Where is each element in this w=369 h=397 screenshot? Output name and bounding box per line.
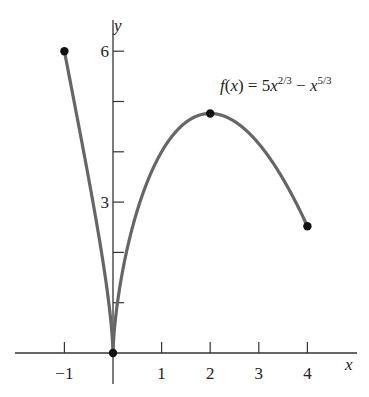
axes — [15, 20, 357, 384]
marked-point — [303, 222, 311, 230]
x-ticks: −11234 — [55, 342, 312, 383]
marked-point — [60, 47, 68, 55]
function-plot: −11234 36 y x f(x) = 5x2/3 − x5/3 — [0, 0, 369, 397]
function-label: f(x) = 5x2/3 − x5/3 — [220, 74, 332, 95]
x-axis-label: x — [344, 355, 353, 374]
x-tick-label: 1 — [157, 364, 166, 383]
exponent-1: 2/3 — [278, 74, 293, 86]
marked-point — [206, 109, 214, 117]
x-tick-label: 3 — [255, 364, 264, 383]
x-tick-label: −1 — [55, 364, 73, 383]
x-tick-label: 4 — [303, 364, 312, 383]
exponent-2: 5/3 — [317, 74, 332, 86]
y-axis-label: y — [112, 16, 122, 35]
y-tick-label: 3 — [101, 193, 110, 212]
x-tick-label: 2 — [206, 364, 215, 383]
y-tick-label: 6 — [101, 42, 110, 61]
marked-point — [109, 349, 117, 357]
